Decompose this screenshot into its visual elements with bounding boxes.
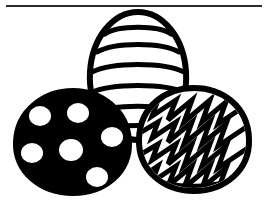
- page-canvas: Black and white coloring-page clip art o…: [0, 0, 267, 214]
- polka-dot-5: [59, 139, 83, 161]
- polka-dot-egg-icon: [15, 90, 130, 194]
- polka-dot-2: [67, 103, 89, 123]
- polka-dot-4: [21, 143, 43, 163]
- polka-dot-3: [101, 127, 123, 147]
- easter-eggs-illustration: [0, 0, 267, 214]
- polka-dot-1: [29, 106, 51, 126]
- zigzag-egg-icon: [138, 88, 249, 191]
- polka-dot-6: [86, 167, 108, 187]
